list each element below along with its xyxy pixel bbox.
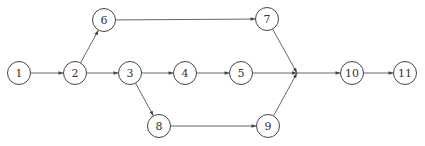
- node-label: 3: [127, 67, 134, 80]
- node-label: 11: [398, 67, 412, 80]
- node-label: 7: [264, 13, 271, 26]
- node-label: 1: [16, 67, 23, 80]
- edge-2-to-6: [81, 30, 99, 63]
- nodes-group: 1234567891011: [8, 8, 417, 138]
- node-7: 7: [256, 8, 279, 31]
- node-1: 1: [8, 62, 31, 85]
- network-diagram: 1234567891011: [0, 0, 425, 146]
- node-2: 2: [64, 62, 87, 85]
- edge-9-to-junction: [274, 73, 297, 116]
- node-10: 10: [341, 62, 364, 85]
- node-label: 5: [238, 67, 245, 80]
- node-3: 3: [119, 62, 142, 85]
- node-label: 4: [182, 67, 189, 80]
- node-9: 9: [257, 115, 280, 138]
- edge-6-to-7: [115, 19, 255, 20]
- node-4: 4: [174, 62, 197, 85]
- node-5: 5: [230, 62, 253, 85]
- edge-3-to-8: [136, 83, 154, 116]
- node-6: 6: [93, 9, 116, 32]
- node-label: 6: [101, 14, 108, 27]
- node-label: 9: [265, 120, 272, 133]
- node-label: 8: [156, 120, 163, 133]
- node-8: 8: [148, 115, 171, 138]
- node-label: 10: [345, 67, 359, 80]
- node-label: 2: [72, 67, 79, 80]
- edge-7-to-junction: [273, 29, 297, 73]
- node-11: 11: [394, 62, 417, 85]
